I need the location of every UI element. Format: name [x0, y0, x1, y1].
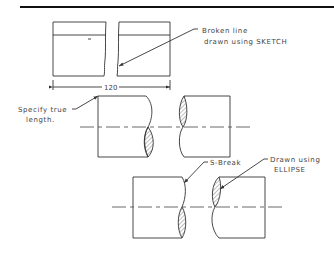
- leader-true-length: Specify true length.: [18, 96, 98, 124]
- label-broken-line-2: drawn using SKETCH: [204, 38, 287, 46]
- label-broken-line-1: Broken line: [202, 27, 248, 35]
- dimension-120: 120: [53, 80, 170, 92]
- label-s-break: S-Break: [210, 159, 241, 167]
- break-lines-drawing: 120 Broken line drawn using SKETCH Speci…: [0, 0, 334, 265]
- label-ellipse-2: ELLIPSE: [274, 166, 306, 174]
- leader-broken-line: Broken line drawn using SKETCH: [119, 27, 287, 66]
- cylinder-view-1: [80, 96, 250, 157]
- cylinder-view-2: [112, 177, 285, 238]
- dimension-value: 120: [104, 84, 117, 92]
- label-ellipse-1: Drawn using: [270, 156, 320, 164]
- label-true-length-2: length.: [26, 116, 55, 124]
- leader-s-break: S-Break: [184, 159, 241, 183]
- label-true-length-1: Specify true: [18, 106, 67, 114]
